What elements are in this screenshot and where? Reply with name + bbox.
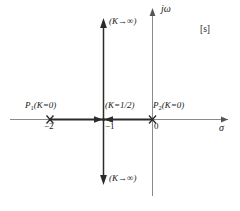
tick-label-minus-two: −2 (44, 122, 54, 131)
locus-up-arrowhead (100, 18, 107, 28)
pole2-symbol: P (153, 100, 159, 110)
pole1-symbol: P (25, 100, 31, 110)
locus-real-right-arrowhead (94, 116, 103, 123)
tick-label-minus-one: −1 (105, 122, 115, 131)
pole2-subscript: 2 (159, 104, 162, 111)
branch-up-label: (K→∞) (109, 17, 136, 26)
root-locus-figure: jω σ [s] (K→∞) (K→∞) P1(K=0) P2(K=0) (K=… (0, 0, 240, 211)
pole1-label: P1(K=0) (25, 101, 56, 110)
pole1-subscript: 1 (31, 104, 34, 111)
pole2-label: P2(K=0) (153, 101, 184, 110)
imaginary-axis-label: jω (161, 4, 171, 14)
real-axis-label: σ (219, 123, 224, 133)
branch-down-label: (K→∞) (109, 174, 136, 183)
pole2-gain: (K=0) (162, 100, 185, 110)
locus-down-arrowhead (100, 175, 107, 185)
tick-label-zero: 0 (154, 122, 159, 131)
breakaway-gain-label: (K=1/2) (105, 101, 135, 110)
s-plane-label: [s] (200, 25, 210, 35)
imaginary-axis-arrowhead (150, 8, 156, 16)
pole1-gain: (K=0) (34, 100, 57, 110)
